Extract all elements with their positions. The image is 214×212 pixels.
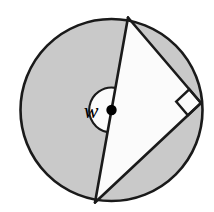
circle-geometry-diagram: w: [0, 0, 214, 212]
geometry-figure: w: [0, 0, 214, 212]
angle-label-w: w: [84, 98, 99, 123]
circle-center-dot: [106, 105, 116, 115]
